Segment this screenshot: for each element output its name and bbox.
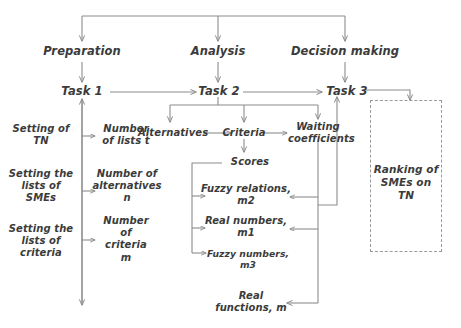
node-setting-lists-smes: Setting the lists of SMEs: [6, 168, 76, 205]
phase-preparation: Preparation: [22, 44, 142, 58]
node-fuzzy-numbers-m3: Fuzzy numbers, m3: [204, 248, 292, 270]
node-real-functions-m: Real functions, m: [213, 290, 289, 314]
feedback-to-task3: [318, 97, 337, 205]
node-task-3: Task 3: [312, 84, 382, 98]
node-task-2: Task 2: [184, 84, 254, 98]
node-setting-lists-criteria: Setting the lists of criteria: [6, 223, 76, 260]
node-number-of-criteria: Number of criteria m: [95, 215, 157, 264]
node-real-numbers-m1: Real numbers, m1: [203, 215, 289, 239]
node-alternatives: Alternatives: [138, 127, 206, 139]
node-number-of-alternatives: Number of alternatives n: [92, 168, 162, 205]
flowchart-diagram: Preparation Analysis Decision making Tas…: [0, 0, 461, 328]
node-task-1: Task 1: [47, 84, 117, 98]
node-scores: Scores: [222, 156, 278, 168]
ranking-result-box: Ranking of SMEs on TN: [370, 100, 442, 252]
node-waiting-coefficients: Waiting coefficients: [288, 121, 348, 145]
node-setting-of-tn: Setting of TN: [8, 123, 74, 147]
phase-analysis: Analysis: [168, 44, 268, 58]
node-fuzzy-relations-m2: Fuzzy relations, m2: [200, 183, 292, 207]
scores-left-rail: [192, 163, 222, 253]
node-criteria: Criteria: [218, 127, 270, 139]
phase-decision-making: Decision making: [285, 44, 405, 58]
node-ranking-of-smes: Ranking of SMEs on TN: [371, 163, 441, 201]
